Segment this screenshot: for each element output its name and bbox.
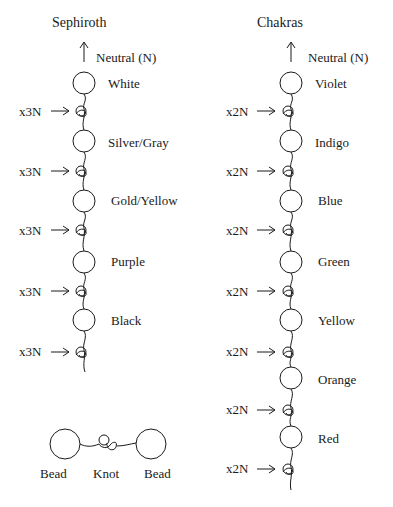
bead-label-red: Red (318, 432, 339, 445)
bead-icon (73, 190, 95, 212)
chakras-title: Chakras (257, 16, 303, 30)
knot-label: x3N (19, 105, 41, 118)
knot-label: x2N (226, 224, 248, 237)
bead-icon (280, 130, 302, 152)
bead-label-orange: Orange (318, 373, 356, 386)
knot-icon (99, 435, 116, 450)
bead-icon (280, 367, 302, 389)
knot-label: x3N (19, 285, 41, 298)
bead-label-indigo: Indigo (315, 136, 349, 149)
bead-icon (280, 72, 302, 94)
bead-label-yellow: Yellow (318, 314, 355, 327)
legend-bead-label: Bead (40, 467, 67, 480)
bead-label-blue: Blue (318, 194, 343, 207)
sephiroth-strand (51, 42, 95, 372)
bead-label-gold-yellow: Gold/Yellow (111, 194, 178, 207)
bead-icon (280, 190, 302, 212)
bead-label-silver-gray: Silver/Gray (108, 136, 169, 149)
knot-label: x3N (19, 224, 41, 237)
bead-label-green: Green (318, 255, 350, 268)
bead-icon (73, 309, 95, 331)
neutral-arrow-icon (80, 42, 88, 62)
knot-label: x2N (226, 403, 248, 416)
bead-icon (280, 251, 302, 273)
knot-label: x2N (226, 462, 248, 475)
bead-icon (73, 72, 95, 94)
bead-label-white: White (108, 77, 140, 90)
bead-icon (73, 251, 95, 273)
neutral-arrow-icon (287, 42, 295, 62)
legend-diagram (50, 429, 166, 459)
bead-icon (280, 426, 302, 448)
knot-label: x2N (226, 105, 248, 118)
legend-knot-label: Knot (93, 467, 119, 480)
knot-label: x2N (226, 345, 248, 358)
sephiroth-title: Sephiroth (52, 16, 106, 30)
knot-label: x2N (226, 165, 248, 178)
chakras-strand (257, 42, 302, 490)
bead-icon (50, 429, 80, 459)
bead-icon (280, 309, 302, 331)
neutral-label: Neutral (N) (308, 51, 368, 64)
bead-label-purple: Purple (111, 255, 145, 268)
bead-icon (136, 429, 166, 459)
bead-label-violet: Violet (315, 77, 347, 90)
neutral-label: Neutral (N) (96, 51, 156, 64)
knot-label: x3N (19, 345, 41, 358)
bead-label-black: Black (111, 314, 141, 327)
knot-label: x2N (226, 285, 248, 298)
legend-bead-label: Bead (144, 467, 171, 480)
knot-label: x3N (19, 165, 41, 178)
bead-icon (73, 130, 95, 152)
